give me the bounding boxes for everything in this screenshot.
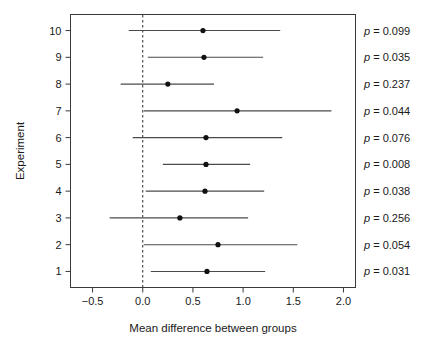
- x-axis-title: Mean difference between groups: [129, 322, 297, 334]
- x-tick-label: 1.5: [286, 295, 301, 307]
- x-tick-label: −0.5: [82, 295, 104, 307]
- p-value-label: p = 0.076: [363, 132, 410, 144]
- forest-plot-figure: −0.50.00.51.01.52.0 12345678910 p = 0.09…: [0, 0, 427, 353]
- point-estimate-marker: [234, 108, 239, 113]
- y-tick-label: 4: [55, 185, 61, 197]
- x-tick-label: 0.5: [185, 295, 200, 307]
- p-value-label: p = 0.054: [363, 239, 410, 251]
- y-tick-label: 3: [55, 212, 61, 224]
- p-value-label: p = 0.038: [363, 185, 410, 197]
- p-value-label: p = 0.008: [363, 158, 410, 170]
- p-value-label: p = 0.031: [363, 265, 410, 277]
- point-estimate-marker: [200, 28, 205, 33]
- y-tick-label: 2: [55, 239, 61, 251]
- y-tick-label: 10: [49, 25, 61, 37]
- point-estimate-marker: [202, 189, 207, 194]
- point-estimate-marker: [215, 242, 220, 247]
- y-axis-title: Experiment: [14, 121, 26, 180]
- forest-plot-svg: −0.50.00.51.01.52.0 12345678910 p = 0.09…: [0, 0, 427, 353]
- point-estimate-marker: [203, 162, 208, 167]
- y-tick-label: 7: [55, 105, 61, 117]
- x-tick-label: 0.0: [135, 295, 150, 307]
- y-tick-label: 5: [55, 158, 61, 170]
- p-value-label: p = 0.044: [363, 105, 410, 117]
- p-value-label: p = 0.035: [363, 51, 410, 63]
- y-tick-label: 8: [55, 78, 61, 90]
- x-tick-label: 2.0: [336, 295, 351, 307]
- p-value-label: p = 0.256: [363, 212, 410, 224]
- figure-background: [0, 0, 427, 353]
- point-estimate-marker: [177, 215, 182, 220]
- p-value-label: p = 0.237: [363, 78, 410, 90]
- x-tick-label: 1.0: [235, 295, 250, 307]
- point-estimate-marker: [204, 269, 209, 274]
- y-tick-label: 6: [55, 132, 61, 144]
- y-tick-label: 1: [55, 265, 61, 277]
- y-tick-label: 9: [55, 51, 61, 63]
- point-estimate-marker: [201, 55, 206, 60]
- p-value-label: p = 0.099: [363, 25, 410, 37]
- point-estimate-marker: [165, 81, 170, 86]
- point-estimate-marker: [203, 135, 208, 140]
